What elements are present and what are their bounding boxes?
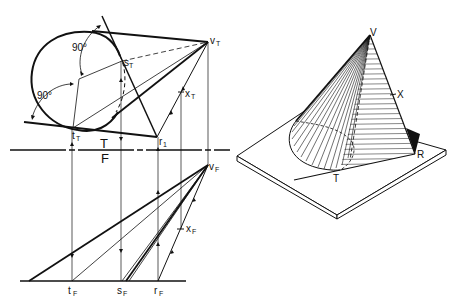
arrow-head: [31, 115, 35, 120]
label-T: T: [333, 173, 339, 184]
label-sF-subscript: F: [123, 290, 127, 297]
arrow-head: [70, 82, 74, 86]
label-X: X: [397, 89, 404, 100]
label-xF: x: [186, 223, 191, 234]
angle-label-upper: 90°: [72, 42, 87, 53]
label-vT: v: [210, 35, 215, 46]
label-tF: t: [68, 285, 71, 296]
label-tF-subscript: F: [73, 290, 77, 297]
label-xT: x: [185, 88, 190, 99]
front-view: v F x F t F s F r F: [20, 161, 219, 297]
label-vF-subscript: F: [215, 166, 219, 173]
label-rF-subscript: F: [159, 290, 163, 297]
projection-lines: [70, 42, 208, 281]
label-xT-subscript: T: [191, 93, 196, 100]
label-tT: t: [72, 130, 75, 141]
element-t-v: [73, 42, 208, 128]
angle-label-lower: 90°: [37, 90, 52, 101]
label-sT-subscript: T: [129, 62, 134, 69]
label-rF: r: [154, 285, 158, 296]
line-r-v-front: [158, 165, 208, 281]
label-R: R: [417, 149, 424, 160]
radius-to-s: [79, 61, 122, 79]
label-vT-subscript: T: [216, 40, 221, 47]
trace-line-top: [24, 122, 157, 137]
label-sF: s: [117, 285, 122, 296]
element-thin: [129, 165, 208, 281]
cone-tangent-plane-diagram: 90° 90° v T s T t T r 1 x T T F: [0, 0, 458, 300]
fold-label-F: F: [101, 151, 109, 166]
pictorial-view: V X R T: [237, 27, 446, 219]
radius-to-t: [73, 79, 79, 128]
label-r1-subscript: 1: [163, 141, 167, 148]
arrow-head: [80, 71, 84, 76]
label-V: V: [370, 27, 377, 38]
tangent-line-lower: [112, 42, 208, 118]
fold-line: T F: [10, 136, 230, 166]
fold-label-T: T: [100, 136, 108, 151]
label-xF-subscript: F: [192, 228, 196, 235]
label-vF: v: [209, 161, 214, 172]
label-tT-subscript: T: [76, 135, 81, 142]
